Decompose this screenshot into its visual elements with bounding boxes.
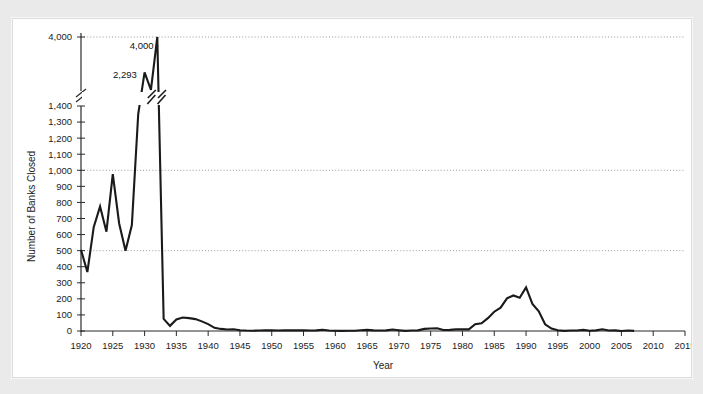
y-tick-label-1300: 1,300	[48, 116, 72, 127]
y-axis-title: Number of Banks Closed	[26, 151, 37, 262]
y-tick-label-200: 200	[56, 293, 72, 304]
y-tick-label-100: 100	[56, 309, 72, 320]
x-tick-label-2015: 2015	[674, 340, 691, 351]
x-tick-label-1945: 1945	[229, 340, 250, 351]
y-tick-label-600: 600	[56, 229, 72, 240]
x-tick-label-1995: 1995	[547, 340, 568, 351]
x-tick-label-2005: 2005	[611, 340, 632, 351]
y-tick-label-1200: 1,200	[48, 133, 72, 144]
x-tick-label-1920: 1920	[70, 340, 91, 351]
y-tick-label-300: 300	[56, 277, 72, 288]
x-tick-label-2000: 2000	[579, 340, 600, 351]
x-tick-label-1940: 1940	[198, 340, 219, 351]
x-tick-label-1990: 1990	[515, 340, 536, 351]
data-line-banks-closed	[81, 37, 634, 331]
axis-break-mask	[82, 92, 685, 105]
x-tick-label-2010: 2010	[643, 340, 664, 351]
y-tick-label-700: 700	[56, 213, 72, 224]
y-tick-label-900: 900	[56, 181, 72, 192]
x-tick-label-1985: 1985	[484, 340, 505, 351]
x-tick-label-1950: 1950	[261, 340, 282, 351]
y-tick-label-800: 800	[56, 197, 72, 208]
y-tick-label-1000: 1,000	[48, 165, 72, 176]
y-tick-label-500: 500	[56, 245, 72, 256]
x-tick-label-1975: 1975	[420, 340, 441, 351]
x-axis-title: Year	[373, 360, 394, 371]
x-tick-label-1935: 1935	[166, 340, 187, 351]
x-tick-label-1960: 1960	[325, 340, 346, 351]
x-tick-label-1965: 1965	[357, 340, 378, 351]
y-tick-label-4000: 4,000	[48, 31, 72, 42]
y-tick-label-400: 400	[56, 261, 72, 272]
x-tick-label-1955: 1955	[293, 340, 314, 351]
y-tick-label-0: 0	[67, 325, 72, 336]
y-tick-label-1400: 1,400	[48, 100, 72, 111]
data-label-2293: 2,293	[113, 69, 137, 80]
bank-failures-line-chart: 01002003004005006007008009001,0001,1001,…	[13, 19, 691, 377]
y-tick-label-1100: 1,100	[48, 149, 72, 160]
x-tick-label-1925: 1925	[102, 340, 123, 351]
chart-card: 01002003004005006007008009001,0001,1001,…	[12, 18, 692, 378]
x-tick-label-1930: 1930	[134, 340, 155, 351]
x-tick-label-1980: 1980	[452, 340, 473, 351]
page-background: 01002003004005006007008009001,0001,1001,…	[0, 0, 703, 394]
data-label-4000: 4,000	[130, 40, 154, 51]
x-tick-label-1970: 1970	[388, 340, 409, 351]
chart-svg: 01002003004005006007008009001,0001,1001,…	[13, 19, 691, 377]
